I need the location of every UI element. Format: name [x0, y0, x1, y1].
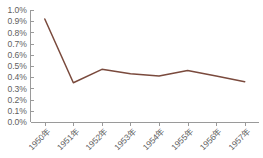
- x-axis-tick-label: 1953年: [112, 126, 138, 152]
- y-axis-tick-label: 0.1%: [7, 106, 27, 116]
- x-axis-tick-label: 1956年: [198, 126, 224, 152]
- line-chart: 1.0%0.9%0.8%0.7%0.6%0.5%0.4%0.3%0.2%0.1%…: [0, 0, 263, 158]
- chart-plot-area: 1.0%0.9%0.8%0.7%0.6%0.5%0.4%0.3%0.2%0.1%…: [0, 0, 263, 158]
- y-axis-tick-label: 0.7%: [7, 39, 27, 49]
- x-axis-tick-label: 1957年: [226, 126, 252, 152]
- y-axis-tick-label: 0.3%: [7, 84, 27, 94]
- x-axis-tick-label: 1952年: [83, 126, 109, 152]
- y-axis-tick-label: 1.0%: [7, 5, 27, 15]
- x-axis-tick-label: 1955年: [169, 126, 195, 152]
- y-axis-tick-labels: 1.0%0.9%0.8%0.7%0.6%0.5%0.4%0.3%0.2%0.1%…: [7, 5, 27, 127]
- y-axis-tick-label: 0.8%: [7, 28, 27, 38]
- y-axis-tick-label: 0.2%: [7, 95, 27, 105]
- y-axis-tick-label: 0.5%: [7, 61, 27, 71]
- x-axis-tick-label: 1950年: [26, 126, 52, 152]
- y-axis-tick-label: 0.0%: [7, 117, 27, 127]
- x-axis-tick-label: 1951年: [55, 126, 81, 152]
- y-axis-tick-label: 0.4%: [7, 72, 27, 82]
- data-series-line: [45, 19, 245, 83]
- x-axis-tick-label: 1954年: [141, 126, 167, 152]
- y-axis-tick-label: 0.9%: [7, 16, 27, 26]
- y-axis-tick-label: 0.6%: [7, 50, 27, 60]
- x-axis-tick-labels: 1950年1951年1952年1953年1954年1955年1956年1957年: [26, 126, 252, 152]
